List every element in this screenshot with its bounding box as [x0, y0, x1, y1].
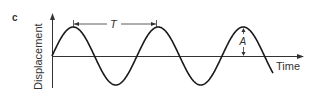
- period-label: T: [110, 18, 118, 30]
- x-axis-label: Time: [276, 60, 300, 72]
- period-arrow-left-icon: [74, 22, 79, 26]
- diagram-canvas: c Displacement Time T A: [0, 0, 318, 94]
- amplitude-arrow-up-icon: [242, 28, 246, 32]
- sine-wave-diagram: c Displacement Time T A: [0, 0, 318, 94]
- amplitude-arrow-down-icon: [242, 52, 246, 56]
- y-axis-arrow-icon: [50, 13, 55, 20]
- panel-label: c: [12, 12, 18, 23]
- period-arrow-right-icon: [151, 22, 156, 26]
- x-axis-arrow-icon: [297, 54, 304, 59]
- amplitude-label: A: [239, 36, 247, 47]
- y-axis-label: Displacement: [32, 23, 44, 90]
